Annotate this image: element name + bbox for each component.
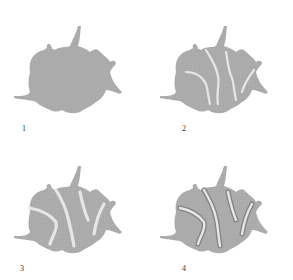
panel-label: 2: [182, 124, 186, 133]
panel-3: 3: [0, 140, 146, 280]
cell-stage-3-illustration: [0, 140, 146, 280]
panel-2: 2: [146, 0, 292, 140]
panel-4: 4: [146, 140, 292, 280]
panel-label: 1: [22, 124, 26, 133]
panel-label: 4: [182, 264, 186, 273]
cell-stage-4-illustration: [146, 140, 292, 280]
cell-stage-1-illustration: [0, 0, 146, 140]
panel-1: 1: [0, 0, 146, 140]
panel-label: 3: [20, 264, 24, 273]
cell-stage-2-illustration: [146, 0, 292, 140]
